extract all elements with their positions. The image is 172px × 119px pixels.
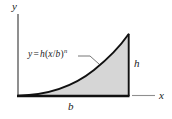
base-dimension-label: b <box>68 101 74 112</box>
shaded-area-region <box>18 35 129 97</box>
curve-equation-label: y=h(x/b)n <box>28 48 67 60</box>
equation-leader-line <box>78 56 99 64</box>
y-axis-label: y <box>12 1 17 12</box>
equation-equals: = <box>32 49 40 59</box>
figure-graphics <box>0 0 172 119</box>
x-axis-label: x <box>159 90 164 101</box>
equation-exponent: n <box>64 47 67 54</box>
spandrel-area-figure: y x b h y=h(x/b)n <box>0 0 172 119</box>
height-dimension-label: h <box>134 58 140 69</box>
